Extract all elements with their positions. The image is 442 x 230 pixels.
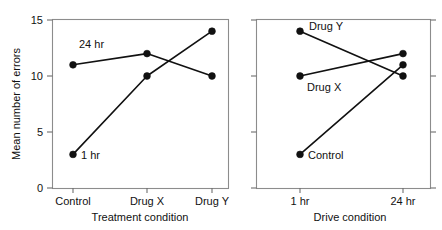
left-panel-y-ticks <box>47 20 53 188</box>
datapoint <box>144 73 151 80</box>
series-label-drug-x: Drug X <box>307 81 342 93</box>
datapoint <box>297 28 304 35</box>
series-label-control: Control <box>308 149 343 161</box>
series-drug-x-right <box>297 50 407 79</box>
datapoint <box>144 50 151 57</box>
left-ytick-label-10: 10 <box>31 70 43 82</box>
right-panel-frame <box>257 20 431 189</box>
datapoint <box>297 151 304 158</box>
datapoint <box>70 151 77 158</box>
right-panel: 1 hr 24 hr Drive condition Drug Y Drug X… <box>251 20 436 224</box>
right-x-axis-title: Drive condition <box>314 211 387 223</box>
left-xtick-label-drug-x: Drug X <box>130 195 165 207</box>
datapoint <box>70 61 77 68</box>
datapoint <box>209 73 216 80</box>
series-drug-y-right <box>297 28 407 80</box>
left-x-axis-title: Treatment condition <box>92 211 189 223</box>
right-panel-y-ticks <box>251 20 436 188</box>
series-label-24hr: 24 hr <box>79 38 104 50</box>
right-xtick-label-24hr: 24 hr <box>390 195 415 207</box>
left-panel: 15 10 5 0 Mean number of errors Control … <box>10 14 230 223</box>
y-axis-title: Mean number of errors <box>10 48 22 160</box>
series-drug-y-right-line <box>300 31 403 76</box>
datapoint <box>297 73 304 80</box>
left-xtick-label-drug-y: Drug Y <box>195 195 230 207</box>
series-label-drug-y: Drug Y <box>309 20 344 32</box>
right-xtick-label-1hr: 1 hr <box>291 195 310 207</box>
series-24hr-left-line <box>73 54 212 76</box>
datapoint <box>400 61 407 68</box>
left-ytick-label-0: 0 <box>37 182 43 194</box>
left-ytick-label-5: 5 <box>37 126 43 138</box>
datapoint <box>209 28 216 35</box>
series-drug-x-right-line <box>300 54 403 76</box>
datapoint <box>400 73 407 80</box>
series-control-right-line <box>300 65 403 155</box>
two-panel-line-chart: 15 10 5 0 Mean number of errors Control … <box>0 0 442 230</box>
datapoint <box>400 50 407 57</box>
left-xtick-label-control: Control <box>55 195 90 207</box>
left-ytick-label-15: 15 <box>31 14 43 26</box>
series-label-1hr: 1 hr <box>81 149 100 161</box>
series-control-right <box>297 61 407 157</box>
series-24hr-left <box>70 50 216 79</box>
